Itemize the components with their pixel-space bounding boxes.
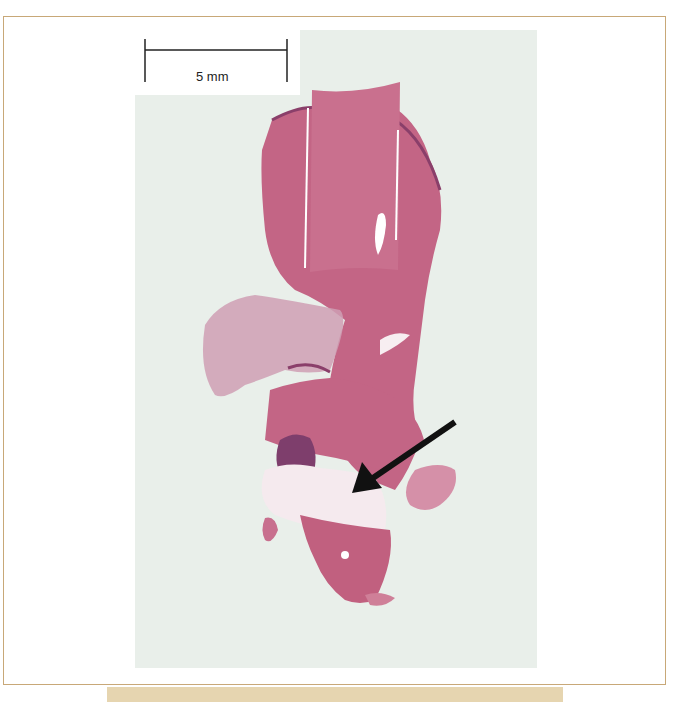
- histology-image: [0, 0, 682, 711]
- scale-bar-label: 5 mm: [196, 69, 229, 84]
